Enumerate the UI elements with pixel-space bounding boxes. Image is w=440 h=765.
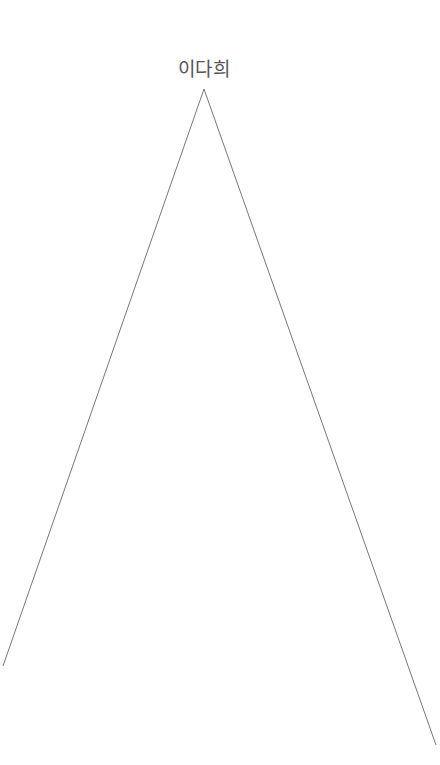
tree-edges (0, 0, 440, 765)
left-edge (3, 89, 204, 666)
right-edge (204, 89, 436, 745)
